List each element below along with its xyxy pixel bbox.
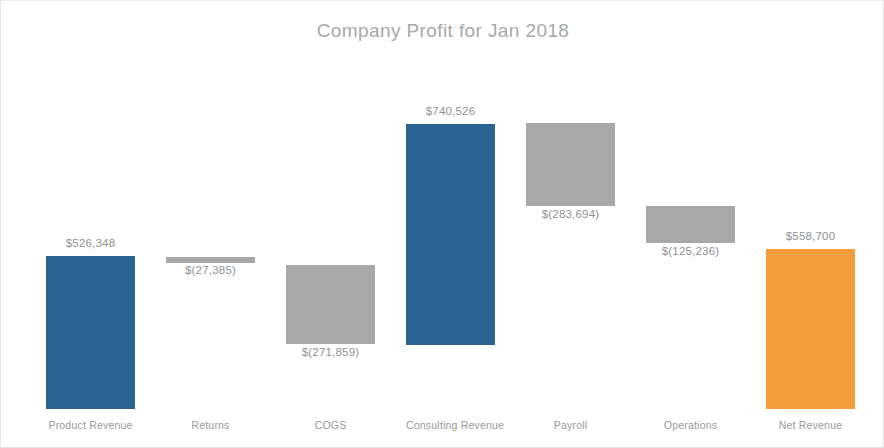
category-axis-label: Operations xyxy=(646,419,735,431)
bar-value-label: $(125,236) xyxy=(646,245,735,257)
bar-value-label: $740,526 xyxy=(406,105,495,117)
waterfall-chart-container: Company Profit for Jan 2018 $526,348Prod… xyxy=(0,0,884,448)
bar-value-label: $(27,385) xyxy=(166,264,255,276)
bar[interactable] xyxy=(526,123,615,206)
bar-group: $(125,236)Operations xyxy=(646,1,735,448)
bar[interactable] xyxy=(766,249,855,409)
bar[interactable] xyxy=(646,206,735,243)
bar-value-label: $526,348 xyxy=(46,237,135,249)
bar-group: $(271,859)COGS xyxy=(286,1,375,448)
bar-value-label: $558,700 xyxy=(766,230,855,242)
bar[interactable] xyxy=(406,124,495,345)
bar[interactable] xyxy=(286,265,375,344)
category-axis-label: COGS xyxy=(286,419,375,431)
category-axis-label: Product Revenue xyxy=(46,419,135,431)
bar-value-label: $(271,859) xyxy=(286,346,375,358)
bar[interactable] xyxy=(166,257,255,263)
bar-group: $(283,694)Payroll xyxy=(526,1,615,448)
bar-group: $740,526Consulting Revenue xyxy=(406,1,495,448)
category-axis-label: Payroll xyxy=(526,419,615,431)
plot-area: $526,348Product Revenue$(27,385)Returns$… xyxy=(1,1,884,448)
category-axis-label: Returns xyxy=(166,419,255,431)
category-axis-label: Consulting Revenue xyxy=(406,419,495,431)
bar-group: $558,700Net Revenue xyxy=(766,1,855,448)
bar-value-label: $(283,694) xyxy=(526,208,615,220)
bar[interactable] xyxy=(46,256,135,409)
category-axis-line xyxy=(15,409,871,410)
bar-group: $526,348Product Revenue xyxy=(46,1,135,448)
bar-group: $(27,385)Returns xyxy=(166,1,255,448)
category-axis-label: Net Revenue xyxy=(766,419,855,431)
